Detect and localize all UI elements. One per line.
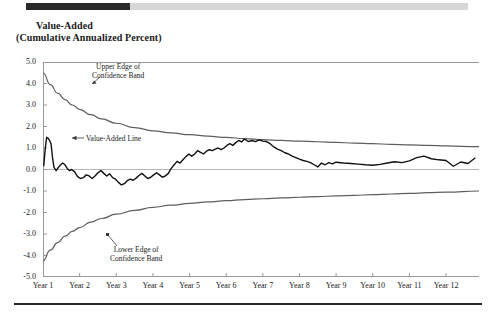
y-axis-tick-label: -5.0 <box>8 272 36 281</box>
chart-title-line2: (Cumulative Annualized Percent) <box>16 32 162 44</box>
annotation-upper-line1: Upper Edge of <box>92 62 144 71</box>
chart-title-block: Value-Added (Cumulative Annualized Perce… <box>16 20 162 44</box>
annotation-lower-line2: Confidence Band <box>110 254 162 263</box>
chart-title-line1: Value-Added <box>36 20 162 32</box>
x-axis-tick-label: Year 12 <box>422 281 470 290</box>
annotation-upper-band: Upper Edge of Confidence Band <box>92 62 144 80</box>
y-axis-tick-label: -1.0 <box>8 186 36 195</box>
y-axis-tick-label: 4.0 <box>8 79 36 88</box>
y-axis-tick-label: 2.0 <box>8 122 36 131</box>
annotation-value-line: Value-Added Line <box>86 134 141 143</box>
y-axis-tick-label: 3.0 <box>8 100 36 109</box>
y-axis-tick-label: 1.0 <box>8 143 36 152</box>
y-axis-tick-label: -2.0 <box>8 208 36 217</box>
plot-area <box>43 62 479 277</box>
bottom-divider <box>14 303 482 305</box>
chart-svg <box>43 62 479 277</box>
y-axis-tick-label: -4.0 <box>8 251 36 260</box>
y-axis-tick-label: 0.0 <box>8 165 36 174</box>
lower-confidence-band-line <box>43 191 479 261</box>
progress-bar-track[interactable] <box>26 3 468 10</box>
progress-bar-fill <box>26 3 130 10</box>
chart-page: Value-Added (Cumulative Annualized Perce… <box>0 0 496 314</box>
annotation-upper-line2: Confidence Band <box>92 71 144 80</box>
y-axis-tick-label: 5.0 <box>8 57 36 66</box>
annotation-lower-band: Lower Edge of Confidence Band <box>110 245 162 263</box>
axis-group <box>44 62 480 277</box>
annotation-lower-line1: Lower Edge of <box>110 245 162 254</box>
y-axis-tick-label: -3.0 <box>8 229 36 238</box>
